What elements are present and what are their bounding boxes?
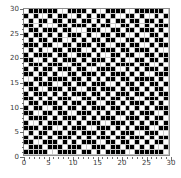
y-axis-minor-tick [22,118,24,119]
x-axis-tick-label: 25 [142,160,151,167]
matrix-cell [164,150,169,155]
y-axis-minor-tick [22,63,24,64]
y-axis-minor-tick [22,14,24,15]
y-axis-tick [20,83,24,84]
y-axis-tick [20,9,24,10]
matrix-plot-figure: 051015202530051015202530 [0,0,181,178]
y-axis-minor-tick [22,39,24,40]
y-axis-tick [20,108,24,109]
y-axis-tick [20,157,24,158]
y-axis-minor-tick [22,24,24,25]
x-axis-minor-tick [132,157,133,159]
y-axis-tick-label: 25 [10,30,19,37]
x-axis-minor-tick [53,157,54,159]
y-axis-tick-label: 0 [15,154,19,161]
x-axis-minor-tick [83,157,84,159]
x-axis-minor-tick [39,157,40,159]
x-axis-minor-tick [156,157,157,159]
y-axis-minor-tick [22,88,24,89]
y-axis-minor-tick [22,53,24,54]
y-axis-minor-tick [22,122,24,123]
y-axis-tick-label: 30 [10,6,19,13]
y-axis-minor-tick [22,152,24,153]
plot-area: 051015202530051015202530 [23,8,170,156]
x-axis-minor-tick [63,157,64,159]
x-axis-tick-label: 15 [93,160,102,167]
y-axis-minor-tick [22,68,24,69]
y-axis-minor-tick [22,113,24,114]
y-axis-minor-tick [22,127,24,128]
x-axis-minor-tick [127,157,128,159]
y-axis-tick [20,132,24,133]
y-axis-minor-tick [22,29,24,30]
x-axis-minor-tick [29,157,30,159]
y-axis-tick [20,58,24,59]
x-axis-minor-tick [34,157,35,159]
x-axis-minor-tick [112,157,113,159]
y-axis-minor-tick [22,147,24,148]
x-axis-tick-label: 20 [118,160,127,167]
x-axis-minor-tick [107,157,108,159]
y-axis-minor-tick [22,103,24,104]
x-axis-tick-label: 10 [69,160,78,167]
y-axis-minor-tick [22,73,24,74]
y-axis-minor-tick [22,78,24,79]
y-axis-minor-tick [22,93,24,94]
x-axis-minor-tick [102,157,103,159]
x-axis-tick-label: 5 [46,160,50,167]
y-axis-minor-tick [22,44,24,45]
x-axis-minor-tick [88,157,89,159]
y-axis-minor-tick [22,142,24,143]
x-axis-minor-tick [44,157,45,159]
y-axis-minor-tick [22,98,24,99]
x-axis-minor-tick [151,157,152,159]
y-axis-tick [20,34,24,35]
y-axis-tick-label: 15 [10,80,19,87]
x-axis-tick-label: 30 [167,160,176,167]
y-axis-minor-tick [22,19,24,20]
y-axis-minor-tick [22,137,24,138]
y-axis-tick-label: 10 [10,104,19,111]
x-axis-minor-tick [137,157,138,159]
matrix-grid [24,9,169,155]
y-axis-tick-label: 20 [10,55,19,62]
x-axis-minor-tick [161,157,162,159]
x-axis-minor-tick [58,157,59,159]
y-axis-minor-tick [22,48,24,49]
x-axis-tick-label: 0 [22,160,26,167]
x-axis-minor-tick [78,157,79,159]
y-axis-tick-label: 5 [15,129,19,136]
